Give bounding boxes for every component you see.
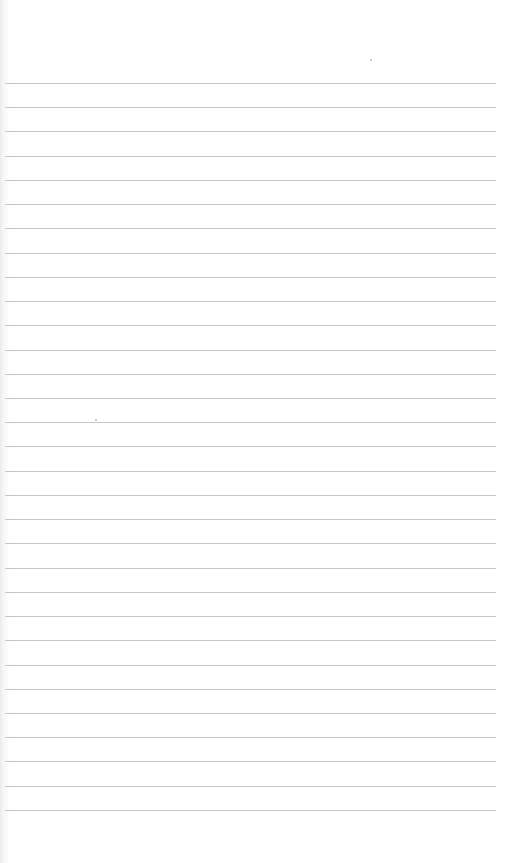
ruled-line xyxy=(5,156,496,157)
ruled-line xyxy=(5,301,496,302)
ruled-line xyxy=(5,446,496,447)
ruled-line xyxy=(5,786,496,787)
paper-speck xyxy=(370,59,372,61)
ruled-line xyxy=(5,713,496,714)
ruled-line xyxy=(5,471,496,472)
ruled-line xyxy=(5,180,496,181)
ruled-line xyxy=(5,665,496,666)
ruled-line xyxy=(5,107,496,108)
paper-speck xyxy=(95,419,97,421)
ruled-line xyxy=(5,592,496,593)
ruled-line xyxy=(5,350,496,351)
ruled-line xyxy=(5,519,496,520)
ruled-line xyxy=(5,737,496,738)
ruled-line xyxy=(5,131,496,132)
ruled-line xyxy=(5,374,496,375)
ruled-line xyxy=(5,277,496,278)
ruled-line xyxy=(5,204,496,205)
ruled-line xyxy=(5,543,496,544)
ruled-line xyxy=(5,495,496,496)
ruled-line xyxy=(5,810,496,811)
lined-paper-page xyxy=(0,0,529,863)
ruled-line xyxy=(5,325,496,326)
ruled-line xyxy=(5,422,496,423)
ruled-line xyxy=(5,253,496,254)
ruled-line xyxy=(5,761,496,762)
ruled-line xyxy=(5,398,496,399)
ruled-line xyxy=(5,689,496,690)
ruled-line xyxy=(5,640,496,641)
ruled-line xyxy=(5,83,496,84)
ruled-line xyxy=(5,228,496,229)
ruled-line xyxy=(5,616,496,617)
ruled-line xyxy=(5,568,496,569)
